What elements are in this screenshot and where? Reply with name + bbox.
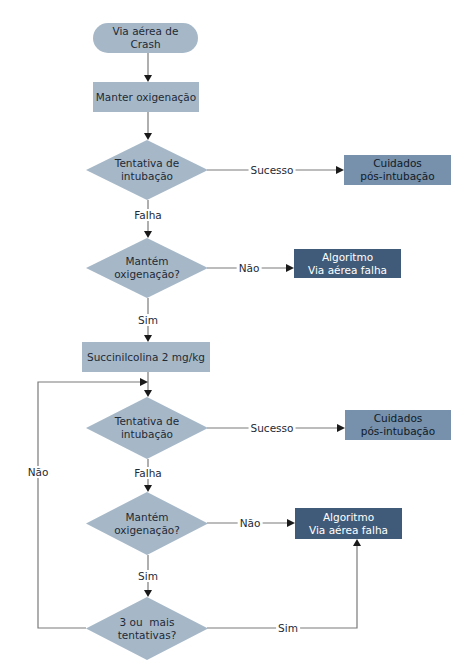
step-succinylcholine-label: Succinilcolina 2 mg/kg bbox=[87, 351, 205, 364]
outcome-label-line2: pós-intubação bbox=[361, 425, 435, 438]
decision-label-line2: oxigenação? bbox=[114, 268, 180, 281]
outcome-post-intubation-care-1: Cuidadospós-intubação bbox=[344, 155, 451, 185]
outcome-label-line2: pós-intubação bbox=[360, 170, 434, 183]
decision-label-line1: Tentativa de bbox=[115, 157, 179, 170]
edge-label-fail-2: Falha bbox=[132, 467, 164, 479]
outcome-label-line1: Algoritmo bbox=[309, 511, 388, 524]
outcome-failed-airway-1: AlgoritmoVia aérea falha bbox=[294, 249, 401, 278]
edge-label-yes-1: Sim bbox=[136, 314, 160, 326]
step-succinylcholine: Succinilcolina 2 mg/kg bbox=[82, 342, 210, 372]
decision-label-line2: intubação bbox=[115, 428, 179, 441]
edge-label-fail-1: Falha bbox=[132, 209, 164, 221]
edge-label-success-1: Sucesso bbox=[249, 164, 296, 176]
edge-label-yes-2: Sim bbox=[136, 570, 160, 582]
edge-label-no-1: Não bbox=[237, 262, 262, 274]
decision-label-line1: Mantém bbox=[114, 255, 180, 268]
connectors-layer bbox=[0, 0, 473, 668]
outcome-label-line2: Via aérea falha bbox=[308, 264, 387, 277]
edge-label-loop-no: Não bbox=[26, 466, 51, 478]
outcome-failed-airway-2: AlgoritmoVia aérea falha bbox=[295, 508, 402, 539]
outcome-label-line1: Algoritmo bbox=[308, 251, 387, 264]
outcome-label-line2: Via aérea falha bbox=[309, 524, 388, 537]
start-label-line1: Via aérea de bbox=[113, 25, 179, 38]
outcome-post-intubation-care-2: Cuidadospós-intubação bbox=[345, 410, 451, 440]
step-maintain-oxygenation-label: Manter oxigenação bbox=[96, 91, 196, 104]
edge-label-attempts-yes: Sim bbox=[276, 622, 300, 634]
edge-label-success-2: Sucesso bbox=[249, 422, 296, 434]
decision-label-line1: 3 ou mais bbox=[118, 616, 177, 629]
start-node: Via aérea deCrash bbox=[93, 23, 198, 53]
decision-label-line1: Tentativa de bbox=[115, 415, 179, 428]
decision-label-line1: Mantém bbox=[114, 511, 180, 524]
start-label-line2: Crash bbox=[113, 38, 179, 51]
decision-label-line2: intubação bbox=[115, 170, 179, 183]
decision-label-line2: tentativas? bbox=[118, 629, 177, 642]
edge-label-no-2: Não bbox=[238, 517, 263, 529]
outcome-label-line1: Cuidados bbox=[361, 412, 435, 425]
outcome-label-line1: Cuidados bbox=[360, 157, 434, 170]
step-maintain-oxygenation: Manter oxigenação bbox=[93, 82, 199, 112]
decision-label-line2: oxigenação? bbox=[114, 524, 180, 537]
